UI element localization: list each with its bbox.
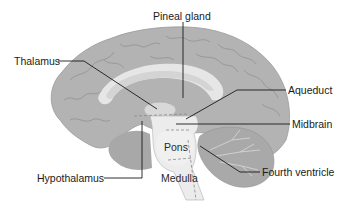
label-aqueduct: Aqueduct bbox=[288, 84, 332, 96]
label-pons: Pons bbox=[164, 141, 188, 153]
label-pineal-gland: Pineal gland bbox=[153, 10, 211, 22]
label-medulla: Medulla bbox=[161, 172, 198, 184]
label-thalamus: Thalamus bbox=[14, 55, 60, 67]
thalamus-region bbox=[144, 102, 176, 118]
label-midbrain: Midbrain bbox=[292, 118, 332, 130]
label-fourth-ventricle: Fourth ventricle bbox=[262, 166, 334, 178]
label-hypothalamus: Hypothalamus bbox=[37, 172, 104, 184]
